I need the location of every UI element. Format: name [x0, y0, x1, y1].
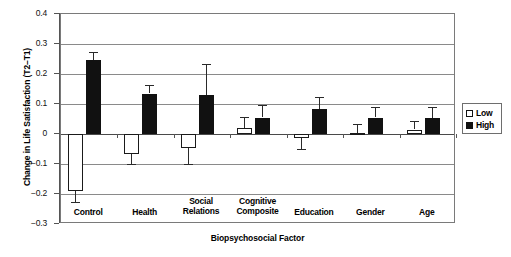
bar-high [86, 60, 101, 134]
x-axis-tick [343, 134, 344, 138]
error-bar-cap [315, 97, 324, 98]
bar-group [174, 14, 230, 222]
x-axis-tick [230, 134, 231, 138]
y-axis-tick-label: −0.3 [31, 219, 47, 228]
bar-group [287, 14, 343, 222]
error-bar [414, 121, 415, 130]
chart-figure: Change in Life Satisfaction (T2–T1) 0.40… [0, 0, 511, 257]
y-axis-tick-label: 0.2 [36, 69, 47, 78]
bar-low [124, 134, 139, 154]
legend-item: High [466, 119, 501, 131]
error-bar [301, 138, 302, 149]
bar-high [142, 94, 157, 135]
x-axis-category-label: Age [399, 207, 455, 217]
x-axis-tick [117, 134, 118, 138]
bar-low [68, 134, 83, 191]
error-bar [357, 124, 358, 133]
x-axis-tick [400, 134, 401, 138]
error-bar-cap [202, 64, 211, 65]
error-bar [188, 148, 189, 164]
bar-high [199, 95, 214, 134]
bar-high [312, 109, 327, 134]
legend-swatch-low [466, 110, 473, 117]
x-axis-category-label: SocialRelations [173, 196, 229, 216]
y-axis-tick-label: −0.1 [31, 159, 47, 168]
error-bar [149, 85, 150, 94]
x-axis-category-label: Health [116, 207, 172, 217]
error-bar-cap [240, 117, 249, 118]
y-axis-tick-label: −0.2 [31, 189, 47, 198]
error-bar [375, 107, 376, 118]
y-axis-tick [54, 223, 59, 224]
error-bar [131, 154, 132, 164]
error-bar-cap [184, 164, 193, 165]
legend-label: High [476, 120, 494, 130]
error-bar-cap [428, 107, 437, 108]
bar-high [368, 118, 383, 135]
x-axis-category-label: Education [286, 207, 342, 217]
error-bar [319, 97, 320, 110]
bar-low [181, 134, 196, 148]
bar-group [400, 14, 456, 222]
bar-high [425, 118, 440, 135]
x-axis-tick [287, 134, 288, 138]
x-axis-category-label: CognitiveComposite [229, 196, 285, 216]
error-bar [93, 52, 94, 60]
x-axis-category-label: Control [60, 207, 116, 217]
error-bar-cap [410, 121, 419, 122]
bar-group [61, 14, 117, 222]
error-bar-cap [353, 124, 362, 125]
error-bar-cap [371, 107, 380, 108]
bar-group [117, 14, 173, 222]
y-axis-tick-label: 0.4 [36, 9, 47, 18]
x-axis-category-label: Gender [342, 207, 398, 217]
chart-legend: LowHigh [462, 103, 502, 134]
y-axis-tick-label: 0.3 [36, 39, 47, 48]
y-axis-tick-label: 0 [42, 129, 47, 138]
bar-group [230, 14, 286, 222]
error-bar-cap [127, 164, 136, 165]
error-bar [262, 105, 263, 118]
y-axis-tick-label: 0.1 [36, 99, 47, 108]
legend-label: Low [476, 108, 492, 118]
error-bar-cap [89, 52, 98, 53]
legend-item: Low [466, 107, 501, 119]
bar-low [237, 128, 252, 134]
error-bar [432, 107, 433, 118]
legend-swatch-high [466, 122, 473, 129]
bar-low [407, 130, 422, 135]
plot-area [60, 13, 455, 223]
bar-group [343, 14, 399, 222]
bar-low [350, 133, 365, 135]
y-axis-ticks [49, 13, 59, 223]
error-bar-cap [258, 105, 267, 106]
x-axis-tick [174, 134, 175, 138]
error-bar-cap [145, 85, 154, 86]
error-bar-cap [297, 149, 306, 150]
x-axis-labels: ControlHealthSocialRelationsCognitiveCom… [60, 196, 455, 222]
error-bar [206, 64, 207, 96]
bar-high [255, 118, 270, 135]
error-bar [244, 117, 245, 128]
x-axis-title: Biopsychosocial Factor [60, 233, 455, 243]
x-axis-tick [456, 134, 457, 138]
